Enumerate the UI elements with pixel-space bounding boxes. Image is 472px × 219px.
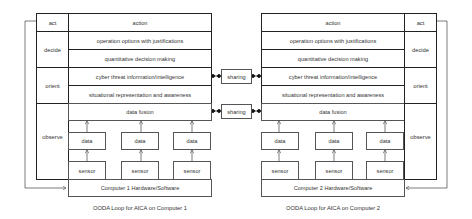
left-phase-observe: observe [36, 103, 69, 180]
right-data-1: data [261, 132, 299, 150]
left-caption: OODA Loop for AICA on Computer 1 [40, 205, 240, 211]
left-phase-orient: orient [36, 67, 69, 104]
right-data-3: data [366, 132, 404, 150]
right-sensor-3: sensor [366, 161, 404, 180]
sharing-box-orient: sharing [221, 69, 252, 84]
left-row-action: action [68, 13, 212, 32]
right-phase-act: act [404, 13, 437, 32]
left-hardware-software: Computer 1 Hardware/Software [68, 179, 212, 197]
right-row-situational: situational representation and awareness [261, 85, 405, 104]
left-phase-decide: decide [36, 31, 69, 68]
left-sensor-1: sensor [68, 161, 106, 180]
right-data-2: data [315, 132, 353, 150]
right-row-quantitative-decision: quantitative decision making [261, 49, 405, 68]
left-row-data-fusion: data fusion [68, 103, 212, 121]
left-data-1: data [68, 132, 106, 150]
left-data-2: data [121, 132, 159, 150]
sharing-box-observe: sharing [221, 104, 252, 119]
left-data-3: data [173, 132, 211, 150]
left-sensor-2: sensor [121, 161, 159, 180]
right-phase-observe: observe [404, 103, 437, 180]
left-row-situational: situational representation and awareness [68, 85, 212, 104]
right-row-data-fusion: data fusion [261, 103, 405, 121]
right-row-action: action [261, 13, 405, 32]
right-sensor-1: sensor [261, 161, 299, 180]
left-row-cyber-threat: cyber threat information/intelligence [68, 67, 212, 86]
right-sensor-2: sensor [315, 161, 353, 180]
left-row-operation-options: operation options with justifications [68, 31, 212, 50]
right-row-operation-options: operation options with justifications [261, 31, 405, 50]
right-row-cyber-threat: cyber threat information/intelligence [261, 67, 405, 86]
right-phase-orient: orient [404, 67, 437, 104]
left-sensor-3: sensor [173, 161, 211, 180]
right-phase-decide: decide [404, 31, 437, 68]
left-row-quantitative-decision: quantitative decision making [68, 49, 212, 68]
left-phase-act: act [36, 13, 69, 32]
right-caption: OODA Loop for AICA on Computer 2 [233, 205, 433, 211]
right-hardware-software: Computer 2 Hardware/Software [261, 179, 405, 197]
